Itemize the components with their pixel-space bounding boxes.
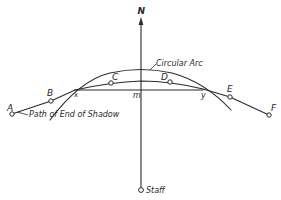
label-x: x — [73, 91, 79, 99]
point-f — [267, 113, 271, 117]
label-a: A — [6, 103, 13, 113]
staff-point — [139, 188, 144, 193]
label-m: m — [133, 91, 141, 100]
label-c: C — [112, 72, 119, 82]
label-b: B — [47, 88, 53, 98]
arc-label: Circular Arc — [156, 59, 203, 68]
point-d — [168, 80, 172, 84]
label-y: y — [200, 91, 206, 100]
north-label: N — [138, 6, 146, 16]
point-e — [228, 95, 232, 99]
path-leader-line — [17, 112, 28, 115]
shadow-path-diagram: N A B C D E F x y m Circular Arc Path of… — [0, 0, 281, 200]
path-label: Path of End of Shadow — [29, 110, 120, 119]
label-e: E — [227, 84, 233, 94]
label-d: D — [161, 72, 168, 82]
staff-label: Staff — [146, 186, 166, 195]
point-b — [49, 99, 53, 103]
north-arrow-icon — [139, 17, 144, 25]
label-f: F — [271, 103, 277, 113]
